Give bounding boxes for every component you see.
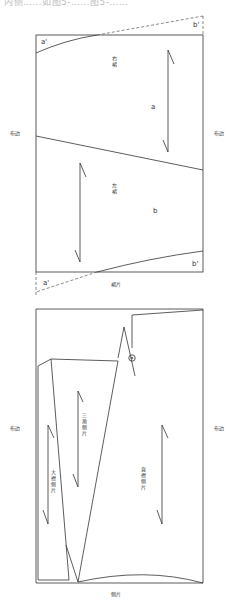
point-b-prime-bottom-label: b' bbox=[192, 261, 198, 268]
point-a-label: a bbox=[151, 104, 155, 111]
side-panel-diagram-title: 侧片 bbox=[111, 592, 121, 597]
selvage-right-label: 布边 bbox=[214, 131, 224, 136]
straight-panel-label: 直襟侧片 bbox=[140, 467, 145, 491]
triangle-panel-label: 三角侧片 bbox=[81, 413, 86, 437]
point-b-label: b bbox=[153, 208, 157, 215]
side-selvage-left-label: 布边 bbox=[10, 426, 20, 431]
skirt-diagram-title: 裙片 bbox=[111, 282, 121, 287]
notch-marker-icon bbox=[129, 355, 135, 361]
skirt-pattern-outline bbox=[36, 35, 203, 272]
right-skirt-label: 右裙 bbox=[111, 56, 116, 68]
point-a-prime-bottom-label: a' bbox=[43, 280, 49, 287]
left-skirt-label: 左裙 bbox=[111, 183, 116, 195]
selvage-left-label: 布边 bbox=[10, 131, 20, 136]
pattern-diagram-lines bbox=[0, 0, 237, 603]
point-a-prime-top-label: a' bbox=[41, 39, 47, 46]
large-panel-label: 大襟侧片 bbox=[50, 470, 55, 494]
point-b-prime-top-label: b' bbox=[193, 22, 199, 29]
skirt-extension-dashed bbox=[36, 16, 203, 295]
side-panel-outline bbox=[36, 309, 203, 583]
side-selvage-right-label: 布边 bbox=[214, 426, 224, 431]
